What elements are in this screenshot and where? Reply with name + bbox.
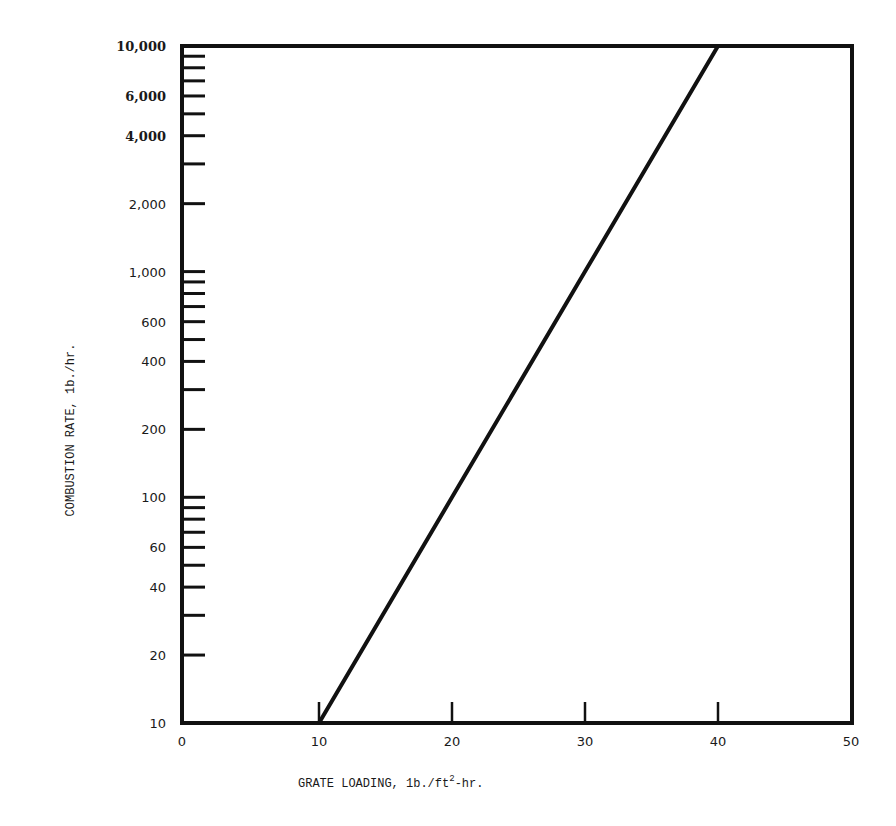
y-axis-ticks xyxy=(183,56,205,655)
y-tick-label: 4,000 xyxy=(125,129,166,144)
y-tick-label: 10 xyxy=(149,716,166,731)
y-axis-title: COMBUSTION RATE, 1b./hr. xyxy=(64,344,78,517)
y-axis-tick-labels: 102040601002004006001,0002,0004,0006,000… xyxy=(116,39,166,731)
x-tick-label: 50 xyxy=(843,734,860,749)
x-tick-label: 10 xyxy=(311,734,328,749)
x-axis-ticks xyxy=(319,702,718,723)
x-axis-title-end: -hr. xyxy=(455,777,484,791)
y-tick-label: 60 xyxy=(149,540,166,555)
y-tick-label: 40 xyxy=(149,580,166,595)
y-tick-label: 100 xyxy=(141,490,166,505)
x-tick-label: 20 xyxy=(444,734,461,749)
y-tick-label: 200 xyxy=(141,422,166,437)
x-axis-tick-labels: 01020304050 xyxy=(178,734,859,749)
x-tick-label: 40 xyxy=(710,734,727,749)
y-tick-label: 400 xyxy=(141,354,166,369)
x-tick-label: 30 xyxy=(577,734,594,749)
data-line xyxy=(319,46,718,723)
x-tick-label: 0 xyxy=(178,734,186,749)
y-tick-label: 20 xyxy=(149,648,166,663)
chart: 102040601002004006001,0002,0004,0006,000… xyxy=(0,0,896,826)
y-tick-label: 10,000 xyxy=(116,39,166,54)
y-tick-label: 2,000 xyxy=(129,197,166,212)
y-tick-label: 6,000 xyxy=(125,89,166,104)
y-tick-label: 1,000 xyxy=(129,265,166,280)
x-axis-title-main: GRATE LOADING, 1b./ft xyxy=(298,777,449,791)
y-tick-label: 600 xyxy=(141,315,166,330)
x-axis-title: GRATE LOADING, 1b./ft2-hr. xyxy=(298,774,483,791)
